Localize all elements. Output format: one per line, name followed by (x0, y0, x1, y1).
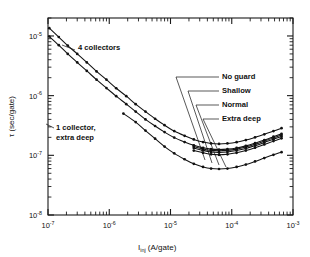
data-point (154, 125, 157, 128)
data-point (254, 160, 257, 163)
annotation-normal: Normal (222, 100, 248, 109)
annotation-shallow: Shallow (222, 86, 251, 95)
x-tick-label: 10-7 (41, 220, 54, 230)
data-point (173, 130, 176, 133)
data-point (134, 121, 137, 124)
data-point (183, 135, 186, 138)
data-point (263, 157, 266, 160)
data-point (125, 103, 128, 106)
data-point (202, 141, 205, 144)
x-axis-title: Iinj (A/gate) (138, 243, 177, 253)
data-point (144, 118, 147, 121)
data-point (173, 136, 176, 139)
data-point (210, 167, 213, 170)
data-point (183, 158, 186, 161)
data-point (272, 153, 275, 156)
data-point (173, 152, 176, 155)
data-point (280, 127, 283, 130)
data-point (192, 138, 195, 141)
x-tick-label: 10-5 (164, 220, 177, 230)
data-point (192, 147, 195, 150)
log-log-chart: 10-710-610-510-410-310-810-710-610-5τ (s… (0, 0, 310, 257)
data-point (226, 142, 229, 145)
data-point (218, 143, 221, 146)
data-point (76, 53, 79, 56)
y-tick-label: 10-6 (29, 90, 42, 100)
data-point (245, 163, 248, 166)
data-point (272, 140, 275, 143)
data-point (105, 78, 108, 81)
data-point (263, 143, 266, 146)
data-point (280, 151, 283, 154)
data-point (66, 53, 69, 56)
x-tick-label: 10-3 (286, 220, 299, 230)
data-point (235, 141, 238, 144)
data-point (85, 61, 88, 64)
annotation-no-guard: No guard (222, 72, 256, 81)
data-point (48, 27, 51, 30)
data-point (280, 137, 283, 140)
x-tick-label: 10-6 (103, 220, 116, 230)
data-point (95, 70, 98, 73)
y-axis-title: τ (sec/gate) (7, 96, 16, 137)
data-point (183, 141, 186, 144)
data-point (144, 110, 147, 113)
x-tick-label: 10-4 (225, 220, 238, 230)
annotation-four-collectors: 4 collectors (78, 43, 120, 52)
data-point (48, 35, 51, 38)
data-point (235, 152, 238, 155)
data-point (134, 103, 137, 106)
data-point (85, 70, 88, 73)
data-point (192, 149, 195, 152)
data-point (226, 151, 229, 154)
data-point (272, 130, 275, 133)
data-point (210, 151, 213, 154)
y-tick-label: 10-7 (29, 150, 42, 160)
data-point (163, 131, 166, 134)
annotation-leader-normal (196, 105, 219, 165)
data-point (235, 166, 238, 169)
data-point (134, 110, 137, 113)
data-point (245, 139, 248, 142)
data-point (192, 162, 195, 165)
data-point (95, 78, 98, 81)
data-point (163, 124, 166, 127)
data-point (125, 95, 128, 98)
data-point (254, 136, 257, 139)
data-point (202, 166, 205, 169)
x-tick-labels: 10-710-610-510-410-3 (41, 220, 299, 230)
annotation-leader-one-collector (46, 124, 54, 128)
data-point (115, 87, 118, 90)
y-tick-labels: 10-810-710-610-5 (29, 31, 42, 220)
data-point (122, 112, 125, 115)
annotations-group: 4 collectors1 collector,extra deepNo gua… (46, 43, 261, 167)
data-point (218, 168, 221, 171)
data-point (105, 87, 108, 90)
data-point (76, 61, 79, 64)
data-point (226, 153, 229, 156)
data-point (57, 44, 60, 47)
data-point (115, 95, 118, 98)
data-point (245, 149, 248, 152)
annotation-extra-deep: Extra deep (222, 114, 261, 123)
data-point (226, 167, 229, 170)
y-tick-label: 10-8 (29, 210, 42, 220)
data-point (163, 145, 166, 148)
data-point (144, 129, 147, 132)
data-point (254, 146, 257, 149)
data-point (154, 137, 157, 140)
data-point (57, 36, 60, 39)
data-point (210, 153, 213, 156)
figure-panel: 10-710-610-510-410-310-810-710-610-5τ (s… (0, 0, 310, 257)
data-point (263, 133, 266, 136)
y-tick-label: 10-5 (29, 31, 42, 41)
annotation-one-collector: 1 collector,extra deep (56, 123, 96, 142)
data-point (154, 117, 157, 120)
